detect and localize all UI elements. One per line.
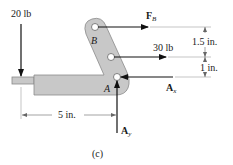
dim-5in-label: 5 in. bbox=[58, 109, 76, 120]
bell-crank-member: B A bbox=[12, 18, 129, 95]
force-30lb-label: 30 lb bbox=[153, 42, 173, 53]
force-20lb-label: 20 lb bbox=[11, 8, 31, 19]
left-tab bbox=[12, 77, 34, 84]
point-B-label: B bbox=[91, 35, 97, 46]
dim-lower-label: 1 in. bbox=[200, 62, 218, 73]
force-Ay-label: Ay bbox=[121, 125, 132, 138]
force-30lb: 30 lb bbox=[114, 42, 173, 57]
dim-upper-label: 1.5 in. bbox=[192, 36, 217, 47]
pin-B bbox=[92, 24, 99, 31]
force-FB: FB bbox=[98, 10, 157, 27]
force-Ax: Ax bbox=[121, 77, 177, 95]
pin-middle bbox=[108, 54, 115, 61]
figure-caption: (c) bbox=[92, 148, 103, 160]
force-FB-label: FB bbox=[146, 10, 157, 23]
point-A-label: A bbox=[103, 83, 111, 94]
force-Ax-label: Ax bbox=[166, 82, 177, 95]
pin-A bbox=[114, 74, 121, 81]
free-body-diagram: B A 20 lb FB 30 lb Ax Ay 1.5 in. 1 in. bbox=[0, 0, 233, 165]
force-20lb: 20 lb bbox=[11, 8, 31, 76]
